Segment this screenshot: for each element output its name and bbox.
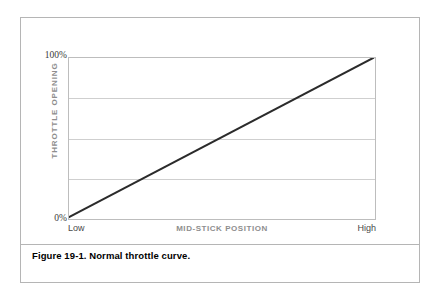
- y-tick-label-0: 0%: [23, 213, 67, 223]
- chart-region: THROTTLE OPENING 100% 0% Low MID-STICK P…: [21, 18, 421, 245]
- x-axis-title: MID-STICK POSITION: [68, 224, 376, 233]
- figure-caption: Figure 19-1. Normal throttle curve.: [32, 250, 190, 261]
- y-tick-label-100: 100%: [23, 50, 67, 60]
- y-axis-tick-labels: 100% 0%: [23, 18, 67, 245]
- x-axis-labels: Low MID-STICK POSITION High: [68, 223, 376, 241]
- throttle-curve-line: [69, 58, 375, 219]
- figure-frame: THROTTLE OPENING 100% 0% Low MID-STICK P…: [20, 17, 420, 283]
- caption-divider: [21, 244, 419, 245]
- plot-area: [68, 57, 376, 220]
- x-tick-label-high: High: [357, 223, 376, 233]
